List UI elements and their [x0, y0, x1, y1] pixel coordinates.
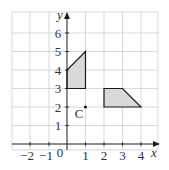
y-tick-label: 5 — [55, 44, 62, 59]
y-tick-label: 3 — [55, 81, 62, 96]
origin-label: 0 — [57, 145, 64, 160]
x-tick-label: −2 — [20, 148, 34, 163]
y-axis-label: y — [55, 7, 63, 22]
point-c-label: C — [75, 106, 84, 121]
coordinate-grid-diagram: −2 −1 0 1 2 3 4 x 1 2 3 4 5 6 y C — [0, 0, 169, 170]
y-tick-label: 4 — [55, 63, 62, 78]
x-tick-label: −1 — [39, 148, 53, 163]
x-tick-label: 2 — [101, 148, 108, 163]
y-tick-label: 2 — [55, 100, 62, 115]
point-c — [84, 105, 87, 108]
x-tick-label: 4 — [138, 148, 145, 163]
x-tick-label: 1 — [82, 148, 89, 163]
y-tick-label: 1 — [55, 118, 62, 133]
x-axis-label: x — [150, 145, 157, 160]
y-axis-arrow-icon — [64, 12, 70, 19]
shape-b — [104, 89, 141, 108]
x-tick-label: 3 — [119, 148, 126, 163]
shape-a — [67, 52, 86, 89]
y-tick-label: 6 — [55, 26, 62, 41]
